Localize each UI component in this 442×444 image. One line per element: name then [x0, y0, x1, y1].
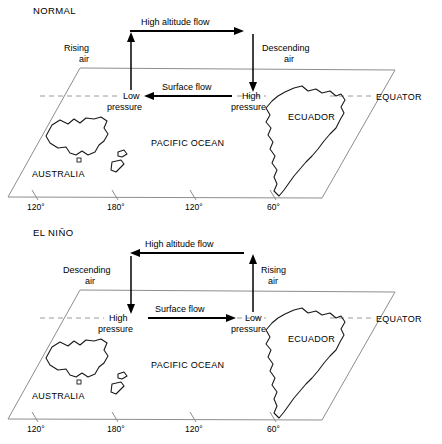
longitude-tick-label-normal-3: 60° [267, 202, 280, 212]
australia-marker-normal [77, 158, 81, 162]
descending-air-label-line2-elnino: air [85, 276, 95, 286]
surface-flow-label-normal: Surface flow [162, 82, 212, 92]
new-zealand-south-elnino [111, 382, 124, 394]
surface-flow-arrowhead-normal [144, 92, 154, 100]
longitude-tick-label-elnino-2: 120° [185, 424, 203, 434]
high-altitude-flow-label-normal: High altitude flow [141, 17, 210, 27]
new-zealand-north-normal [118, 150, 127, 157]
australia-outline-elnino [46, 339, 108, 377]
longitude-tick-label-elnino-3: 60° [267, 424, 280, 434]
australia-outline-normal [46, 117, 108, 155]
high-pressure-line2-normal: pressure [231, 102, 266, 112]
panel-elnino-canvas: EL NIÑO High altitude flow Surface flow … [0, 222, 442, 444]
rising-air-label-line1-elnino: Rising [261, 265, 286, 275]
pacific-ocean-label-elnino: PACIFIC OCEAN [151, 360, 224, 370]
panel-normal-canvas: NORMAL High altitude flow Surface flow R… [0, 0, 442, 222]
panel-normal: NORMAL High altitude flow Surface flow R… [0, 0, 442, 222]
pacific-ocean-label-normal: PACIFIC OCEAN [151, 138, 224, 148]
south-america-outline-normal [266, 86, 345, 196]
high-altitude-flow-label-elnino: High altitude flow [145, 239, 214, 249]
rising-air-label-line2-elnino: air [268, 276, 278, 286]
rising-air-label-line1-normal: Rising [64, 43, 89, 53]
equator-label-elnino: EQUATOR [376, 314, 422, 324]
longitude-tick-label-elnino-0: 120° [27, 424, 45, 434]
new-zealand-north-elnino [118, 372, 127, 379]
panel-elnino: EL NIÑO High altitude flow Surface flow … [0, 222, 442, 444]
australia-label-elnino: AUSTRALIA [32, 391, 85, 401]
australia-label-normal: AUSTRALIA [32, 169, 85, 179]
rising-air-arrowhead-elnino [249, 254, 257, 264]
low-pressure-line2-normal: pressure [107, 102, 142, 112]
tick-normal-1 [112, 190, 118, 200]
rising-air-arrowhead-normal [127, 32, 135, 42]
ecuador-label-elnino: ECUADOR [288, 334, 335, 344]
high-pressure-line2-elnino: pressure [98, 324, 133, 334]
high-pressure-line1-elnino: High [109, 313, 128, 323]
tick-elnino-2 [190, 412, 196, 422]
surface-flow-label-elnino: Surface flow [155, 304, 205, 314]
tick-normal-0 [32, 190, 38, 200]
high-altitude-flow-arrowhead-elnino [130, 249, 140, 257]
rising-air-label-line2-normal: air [79, 54, 89, 64]
descending-air-label-line1-elnino: Descending [63, 265, 111, 275]
longitude-tick-label-elnino-1: 180° [107, 424, 125, 434]
longitude-tick-label-normal-2: 120° [185, 202, 203, 212]
ecuador-label-normal: ECUADOR [288, 112, 335, 122]
descending-air-label-line2-normal: air [284, 54, 294, 64]
south-america-outline-elnino [266, 308, 345, 418]
panel-title-normal: NORMAL [33, 5, 76, 16]
descending-air-label-line1-normal: Descending [262, 43, 310, 53]
tick-elnino-1 [112, 412, 118, 422]
low-pressure-line1-normal: Low [123, 91, 140, 101]
low-pressure-line2-elnino: pressure [231, 324, 266, 334]
longitude-tick-label-normal-1: 180° [107, 202, 125, 212]
panel-title-elnino: EL NIÑO [33, 227, 73, 238]
australia-marker-elnino [77, 380, 81, 384]
low-pressure-line1-elnino: Low [245, 313, 262, 323]
tick-normal-2 [190, 190, 196, 200]
surface-flow-arrowhead-elnino [226, 314, 236, 322]
high-pressure-line1-normal: High [242, 91, 261, 101]
longitude-tick-label-normal-0: 120° [27, 202, 45, 212]
tick-elnino-0 [32, 412, 38, 422]
equator-label-normal: EQUATOR [376, 92, 422, 102]
descending-air-arrowhead-elnino [127, 304, 135, 314]
high-altitude-flow-arrowhead-normal [234, 27, 244, 35]
new-zealand-south-normal [111, 160, 124, 172]
